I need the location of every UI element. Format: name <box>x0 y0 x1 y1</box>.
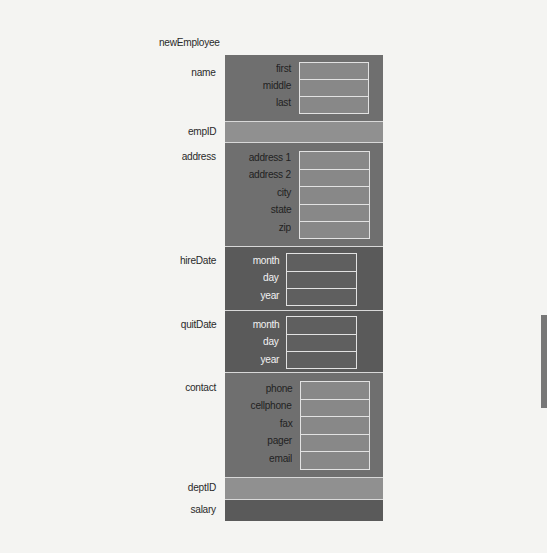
contact-fields-box <box>300 381 370 470</box>
field-slot-quit-day <box>287 335 356 353</box>
field-label-phone: phone <box>265 382 292 394</box>
field-label-hire-year: year <box>260 289 279 301</box>
field-slot-city <box>300 187 369 205</box>
field-slot-zip <box>300 222 369 238</box>
field-slot-phone <box>301 382 369 400</box>
employee-record-diagram: newEmployee name empID address hireDate … <box>0 0 547 553</box>
field-slot-hire-year <box>287 289 356 305</box>
section-label-salary: salary <box>191 503 216 515</box>
field-slot-pager <box>301 435 369 453</box>
field-slot-first <box>300 63 368 80</box>
name-fields-box <box>299 62 369 114</box>
field-label-last: last <box>276 96 291 108</box>
field-slot-cellphone <box>301 400 369 418</box>
field-label-email: email <box>269 452 292 464</box>
field-label-hire-day: day <box>263 271 279 283</box>
field-label-quit-year: year <box>260 353 279 365</box>
field-label-first: first <box>276 62 291 74</box>
field-label-middle: middle <box>263 79 291 91</box>
field-slot-hire-day <box>287 272 356 290</box>
section-label-name: name <box>192 66 216 78</box>
field-label-zip: zip <box>279 221 291 233</box>
field-slot-quit-year <box>287 352 356 368</box>
field-label-cellphone: cellphone <box>251 399 292 411</box>
field-slot-fax <box>301 417 369 435</box>
section-label-hiredate: hireDate <box>180 254 216 266</box>
address-fields-box <box>299 151 370 239</box>
field-slot-hire-month <box>287 254 356 272</box>
field-label-quit-day: day <box>263 335 279 347</box>
quitdate-fields-box <box>286 316 357 369</box>
hiredate-fields-box <box>286 253 357 306</box>
section-label-address: address <box>182 150 216 162</box>
field-label-pager: pager <box>267 434 292 446</box>
field-label-hire-month: month <box>252 254 279 266</box>
section-label-empid: empID <box>188 125 216 137</box>
field-slot-address2 <box>300 170 369 188</box>
field-label-fax: fax <box>279 417 292 429</box>
section-salary <box>225 500 383 521</box>
field-slot-middle <box>300 80 368 97</box>
section-label-deptid: deptID <box>188 481 216 493</box>
field-label-address2: address 2 <box>249 168 291 180</box>
side-thumb-tab <box>541 315 547 408</box>
field-label-state: state <box>270 203 291 215</box>
section-label-contact: contact <box>185 381 216 393</box>
field-label-address1: address 1 <box>249 151 291 163</box>
root-label: newEmployee <box>159 36 220 48</box>
field-label-city: city <box>277 186 291 198</box>
field-slot-email <box>301 452 369 469</box>
field-slot-state <box>300 205 369 223</box>
field-label-quit-month: month <box>252 318 279 330</box>
section-label-quitdate: quitDate <box>180 318 216 330</box>
field-slot-last <box>300 97 368 113</box>
field-slot-address1 <box>300 152 369 170</box>
section-deptid <box>225 478 383 499</box>
field-slot-quit-month <box>287 317 356 335</box>
section-empid <box>225 122 383 142</box>
